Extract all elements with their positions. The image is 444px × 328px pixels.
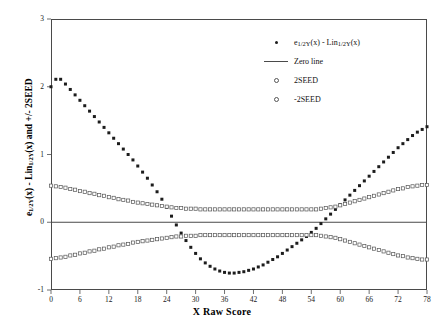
x-tick-label: 0	[41, 296, 61, 304]
legend-item-residual: e1/2Y(x) - Lin1/2Y(x)	[258, 33, 418, 52]
x-tick-label: 60	[330, 296, 350, 304]
legend-label-pos-2seed: 2SEED	[294, 76, 318, 85]
filled-dot-icon	[258, 37, 294, 49]
x-tick-label: 18	[128, 296, 148, 304]
x-tick-label: 36	[215, 296, 235, 304]
legend-item-neg-2seed: -2SEED	[258, 90, 418, 109]
y-axis-title-part2: (x) - Lin	[24, 166, 34, 199]
legend-item-zero-line: Zero line	[258, 52, 418, 71]
legend-label-zero-line: Zero line	[294, 57, 323, 66]
legend-label-neg-2seed: -2SEED	[294, 95, 321, 104]
open-dot-icon	[258, 94, 294, 106]
x-tick-label: 42	[243, 296, 263, 304]
line-icon	[258, 56, 294, 68]
y-axis-title-part3: (x) and +/- 2SEED	[24, 78, 34, 152]
x-axis-title: X Raw Score	[0, 306, 444, 317]
x-tick-label: 6	[70, 296, 90, 304]
x-tick-label: 12	[99, 296, 119, 304]
y-axis-title-part1: e	[24, 212, 34, 216]
y-axis-title: e1/2Y(x) - Lin1/2Y(x) and +/- 2SEED	[24, 22, 34, 272]
x-tick-label: 48	[272, 296, 292, 304]
open-dot-icon	[258, 75, 294, 87]
x-tick-label: 72	[388, 296, 408, 304]
x-tick-label: 78	[417, 296, 437, 304]
chart-figure: -10123 06121824303642485460667278 X Raw …	[0, 0, 444, 328]
legend-label-residual: e1/2Y(x) - Lin1/2Y(x)	[294, 38, 360, 47]
y-tick-label: -1	[26, 286, 44, 294]
y-axis-title-sub2: 1/2Y	[27, 153, 34, 166]
x-tick-label: 24	[157, 296, 177, 304]
x-tick-label: 30	[186, 296, 206, 304]
x-tick-label: 54	[301, 296, 321, 304]
x-tick-label: 66	[359, 296, 379, 304]
y-axis-title-sub1: 1/2Y	[27, 199, 34, 212]
legend-item-pos-2seed: 2SEED	[258, 71, 418, 90]
chart-legend: e1/2Y(x) - Lin1/2Y(x) Zero line 2SEED -2…	[258, 33, 418, 109]
